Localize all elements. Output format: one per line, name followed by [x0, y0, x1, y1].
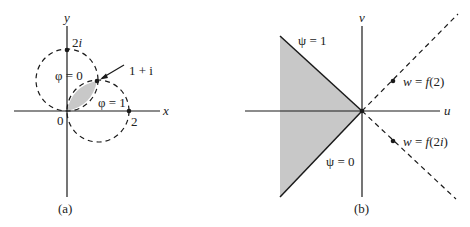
label-phi-1: φ = 1 — [98, 95, 126, 110]
point-2i — [65, 48, 70, 53]
point-w-f2i — [391, 139, 396, 144]
panel-a: y x 2i 1 + i φ = 0 φ = 1 0 2 (a) — [14, 10, 169, 216]
label-2i: 2i — [72, 35, 83, 50]
label-2: 2 — [131, 114, 138, 129]
point-w-f2 — [391, 79, 396, 84]
x-axis-label: x — [162, 103, 169, 118]
point-1-plus-i — [95, 79, 100, 84]
origin-label: 0 — [57, 113, 64, 128]
label-phi-0: φ = 0 — [55, 68, 83, 83]
label-w-f2: w = f(2) — [403, 74, 444, 89]
point-2 — [127, 109, 132, 114]
label-w-f2i: w = f(2i) — [403, 134, 448, 149]
shaded-triangle-region — [280, 36, 362, 197]
panel-b: v u ψ = 1 ψ = 0 w = f(2) w = f(2i) (b) — [245, 10, 458, 216]
label-psi-1: ψ = 1 — [298, 33, 326, 48]
dashed-ray-upper — [362, 14, 458, 111]
arrowhead-icon — [100, 74, 108, 80]
label-psi-0: ψ = 0 — [326, 154, 354, 169]
dashed-ray-lower — [362, 111, 456, 199]
origin-point — [360, 109, 365, 114]
figure-canvas: y x 2i 1 + i φ = 0 φ = 1 0 2 (a) v u ψ =… — [0, 0, 470, 227]
v-axis-label: v — [359, 10, 365, 25]
caption-a: (a) — [58, 201, 72, 216]
caption-b: (b) — [354, 201, 369, 216]
label-1-plus-i: 1 + i — [129, 63, 153, 78]
u-axis-label: u — [444, 103, 451, 118]
y-axis-label: y — [62, 10, 70, 25]
